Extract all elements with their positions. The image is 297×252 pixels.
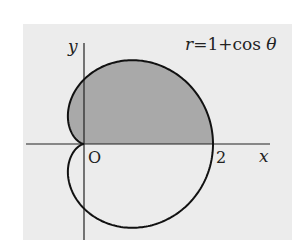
origin-label: O (88, 148, 101, 167)
y-axis-label: y (67, 36, 78, 56)
tick-label-2: 2 (216, 148, 226, 167)
cardioid-figure: y x O 2 r=1+cos θ (0, 0, 297, 252)
equation-label: r=1+cos θ (185, 34, 277, 54)
x-axis-label: x (259, 146, 269, 166)
